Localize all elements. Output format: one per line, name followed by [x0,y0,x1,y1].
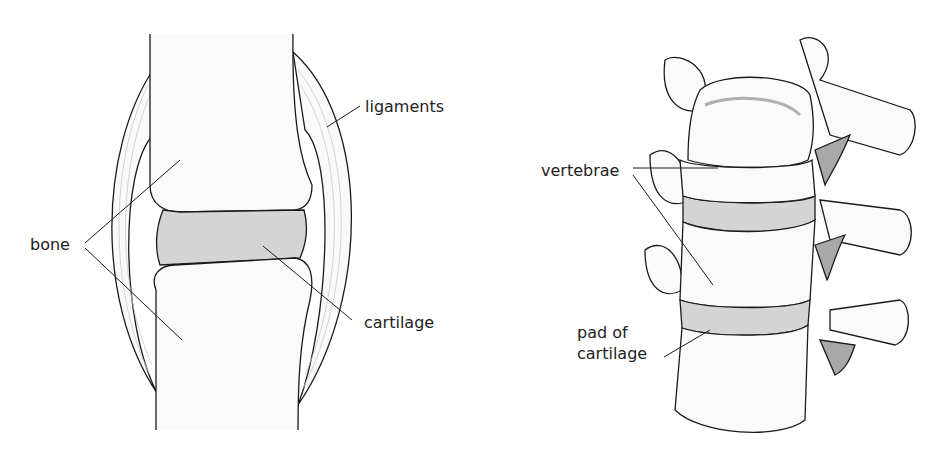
upper-bone [150,34,312,212]
label-vertebrae: vertebrae [541,162,619,180]
label-ligaments: ligaments [365,98,444,116]
vertebra-lower [680,220,815,308]
lower-bone [154,258,312,430]
label-bone: bone [30,236,70,254]
label-pad-line2: cartilage [577,345,647,363]
vertebra-top [688,77,814,167]
vertebra-bottom [675,325,808,432]
joint-diagram [0,0,943,464]
cartilage [157,210,307,265]
spine-diagram [633,38,915,433]
label-pad-line1: pad of [577,324,628,342]
label-cartilage: cartilage [364,314,434,332]
